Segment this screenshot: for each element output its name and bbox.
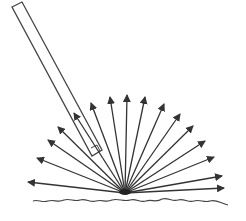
reflected-rays — [28, 95, 224, 193]
reflected-ray-arrow — [125, 95, 127, 193]
reflection-point — [119, 189, 131, 195]
reflected-ray-arrow — [110, 97, 125, 193]
rough-surface — [33, 199, 228, 205]
incident-beam — [12, 2, 102, 156]
diffuse-reflection-diagram — [0, 0, 246, 221]
